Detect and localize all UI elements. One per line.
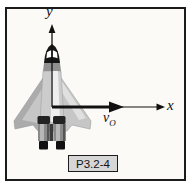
velocity-label: vO (103, 111, 116, 128)
shuttle-nozzle-right-highlight (56, 124, 60, 141)
x-axis-label: x (167, 98, 174, 113)
x-axis-arrowhead (157, 104, 166, 111)
shuttle-foot-right (56, 141, 65, 150)
figure-label: P3.2-4 (76, 158, 110, 170)
shuttle-nozzle-left-edge (47, 124, 50, 141)
shuttle-foot-left (39, 141, 48, 150)
figure-label-box: P3.2-4 (68, 155, 118, 172)
figure-frame: y x vO P3.2-4 (5, 7, 186, 181)
shuttle-engine-cap-left (38, 116, 51, 124)
velocity-subscript: O (109, 118, 116, 128)
figure: y x vO P3.2-4 (0, 0, 196, 188)
y-axis-arrowhead (49, 24, 56, 33)
shuttle-nozzle-left-highlight (40, 124, 44, 141)
shuttle-nozzle-gap (50, 124, 54, 141)
y-axis-label: y (46, 4, 53, 19)
shuttle-nozzle-right-edge (63, 124, 66, 141)
shuttle-engine-cap-right (53, 116, 66, 124)
